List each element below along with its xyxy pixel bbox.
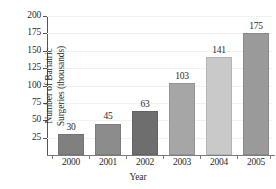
bar-value-label: 175 xyxy=(249,22,263,32)
y-tick-label: 175 xyxy=(27,29,41,39)
plot-area: 200 175 150 125 100 75 50 25 30 xyxy=(47,16,273,155)
x-tick-label-2004: 2004 xyxy=(210,158,228,168)
bar-rect xyxy=(95,124,121,155)
x-tick-label-2003: 2003 xyxy=(173,158,191,168)
y-tick-label: 150 xyxy=(27,46,41,56)
bar-value-label: 103 xyxy=(175,72,189,82)
bar-value-label: 63 xyxy=(140,100,149,110)
bar-rect xyxy=(206,57,232,155)
x-axis-line xyxy=(47,155,275,156)
bar-chart: 200 175 150 125 100 75 50 25 30 xyxy=(0,0,276,189)
x-tick-label-2001: 2001 xyxy=(99,158,117,168)
x-axis-title: Year xyxy=(0,173,276,183)
bar-rect xyxy=(243,33,269,155)
bar-rect xyxy=(132,111,158,155)
bar-value-label: 30 xyxy=(66,123,75,133)
x-tick-label-2000: 2000 xyxy=(62,158,80,168)
y-axis-title-line1: Number of Bariatric xyxy=(44,15,56,157)
bar-value-label: 141 xyxy=(212,46,226,56)
x-tick-label-2002: 2002 xyxy=(136,158,154,168)
bar-value-label: 45 xyxy=(103,112,112,122)
y-axis-title-line2: Surgeries (thousands) xyxy=(55,15,67,157)
y-tick-label: 50 xyxy=(32,116,41,126)
bar-rect xyxy=(169,83,195,155)
y-tick-label: 25 xyxy=(32,133,41,143)
x-tick-label-2005: 2005 xyxy=(247,158,265,168)
y-tick-label: 200 xyxy=(27,11,41,21)
y-tick-label: 125 xyxy=(27,63,41,73)
y-axis-title: Number of Bariatric Surgeries (thousands… xyxy=(44,15,67,157)
y-tick-label: 100 xyxy=(27,81,41,91)
y-tick-label: 75 xyxy=(32,98,41,108)
